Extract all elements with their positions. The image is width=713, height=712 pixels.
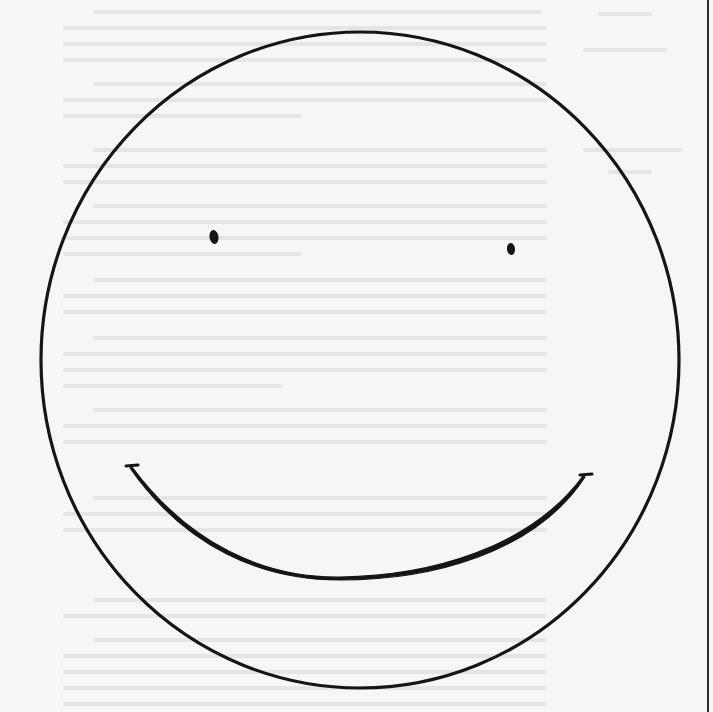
smile-mouth	[130, 467, 585, 580]
smile-right-tick	[580, 474, 592, 475]
paper-page	[0, 0, 713, 712]
left-eye	[209, 229, 220, 244]
page-edge-rule	[707, 0, 709, 712]
smile-left-tick	[126, 465, 138, 466]
face-outline	[41, 32, 679, 688]
right-eye	[506, 243, 515, 256]
smiley-face-illustration	[0, 0, 713, 712]
